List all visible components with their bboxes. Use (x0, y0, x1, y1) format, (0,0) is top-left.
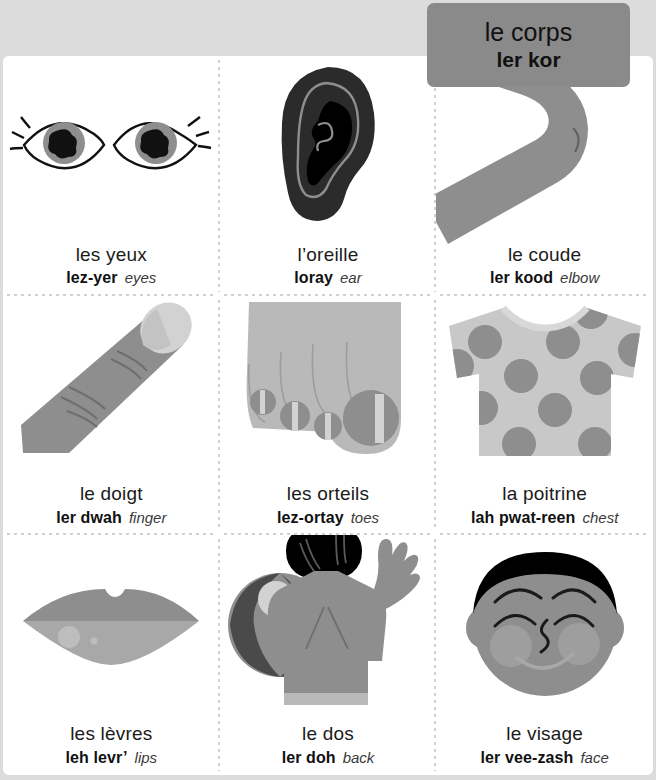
label-group: le visage ler vee-zashface (436, 722, 653, 767)
chest-illustration (436, 296, 653, 474)
lip-highlight-small (91, 638, 98, 645)
shirt-back (268, 571, 387, 693)
raised-hand (374, 539, 420, 609)
eye-right (114, 117, 211, 168)
english-word: elbow (560, 269, 599, 286)
banner-title-french: le corps (485, 18, 573, 47)
finger-illustration (3, 296, 220, 474)
label-group: la poitrine lah pwat-reenchest (436, 482, 653, 527)
vocabulary-grid: les yeux lez-yereyes l’oreille lorayear (3, 56, 653, 775)
vocab-cell-back[interactable]: le dos ler dohback (220, 535, 437, 775)
pronunciation-line: lorayear (220, 268, 437, 287)
ear-illustration (220, 56, 437, 234)
english-word: face (580, 749, 608, 766)
french-word: la poitrine (436, 482, 653, 506)
french-word: les lèvres (3, 722, 220, 746)
banner-title-pronunciation: ler kor (496, 47, 560, 72)
french-word: les yeux (3, 243, 220, 267)
french-word: les orteils (220, 482, 437, 506)
pronunciation: ler dwah (56, 509, 122, 526)
pronunciation-line: lez-yereyes (3, 268, 220, 287)
label-group: les orteils lez-ortaytoes (220, 482, 437, 527)
english-word: eyes (125, 269, 157, 286)
french-word: le coude (436, 243, 653, 267)
french-word: le dos (220, 722, 437, 746)
title-banner: le corps ler kor (427, 3, 630, 87)
pronunciation-line: ler dohback (220, 748, 437, 767)
english-word: finger (129, 509, 167, 526)
pronunciation-line: ler vee-zashface (436, 748, 653, 767)
label-group: le coude ler koodelbow (436, 243, 653, 288)
english-word: back (343, 749, 375, 766)
french-word: le doigt (3, 482, 220, 506)
pronunciation-line: ler dwahfinger (3, 508, 220, 527)
lip-highlight-large (58, 626, 80, 648)
english-word: toes (351, 509, 379, 526)
vocab-cell-ear[interactable]: l’oreille lorayear (220, 56, 437, 296)
pronunciation: leh levr’ (66, 749, 128, 766)
page-root: { "banner": { "title_fr": "le corps", "t… (0, 0, 656, 780)
label-group: l’oreille lorayear (220, 243, 437, 288)
french-word: le visage (436, 722, 653, 746)
pronunciation: lah pwat-reen (471, 509, 575, 526)
english-word: ear (340, 269, 362, 286)
label-group: le doigt ler dwahfinger (3, 482, 220, 527)
pronunciation: lez-ortay (277, 509, 344, 526)
vocab-cell-eyes[interactable]: les yeux lez-yereyes (3, 56, 220, 296)
eye-left (10, 117, 104, 168)
french-word: l’oreille (220, 243, 437, 267)
blush-right (558, 623, 600, 665)
vocab-cell-elbow[interactable]: le coude ler koodelbow (436, 56, 653, 296)
pronunciation: ler vee-zash (481, 749, 574, 766)
vocab-cell-chest[interactable]: la poitrine lah pwat-reenchest (436, 296, 653, 536)
picture-dictionary-page: les yeux lez-yereyes l’oreille lorayear (3, 56, 653, 775)
lower-lip (23, 621, 199, 665)
pronunciation-line: lah pwat-reenchest (436, 508, 653, 527)
english-word: chest (582, 509, 618, 526)
pronunciation-line: ler koodelbow (436, 268, 653, 287)
vocab-cell-face[interactable]: le visage ler vee-zashface (436, 535, 653, 775)
toes-illustration (220, 296, 437, 474)
pronunciation: loray (294, 269, 333, 286)
english-word: lips (135, 749, 158, 766)
vocab-cell-toes[interactable]: les orteils lez-ortaytoes (220, 296, 437, 536)
pronunciation: ler doh (282, 749, 336, 766)
vocab-cell-lips[interactable]: les lèvres leh levr’lips (3, 535, 220, 775)
vocab-cell-finger[interactable]: le doigt ler dwahfinger (3, 296, 220, 536)
label-group: le dos ler dohback (220, 722, 437, 767)
eyes-illustration (3, 56, 220, 234)
blush-left (490, 625, 532, 667)
label-group: les yeux lez-yereyes (3, 243, 220, 288)
pronunciation: lez-yer (66, 269, 117, 286)
face-illustration (436, 535, 653, 713)
back-illustration (220, 535, 437, 713)
pronunciation: ler kood (490, 269, 553, 286)
lips-illustration (3, 535, 220, 713)
pronunciation-line: leh levr’lips (3, 748, 220, 767)
pronunciation-line: lez-ortaytoes (220, 508, 437, 527)
label-group: les lèvres leh levr’lips (3, 722, 220, 767)
upper-lip (23, 589, 199, 621)
shirt-hem (284, 693, 368, 705)
